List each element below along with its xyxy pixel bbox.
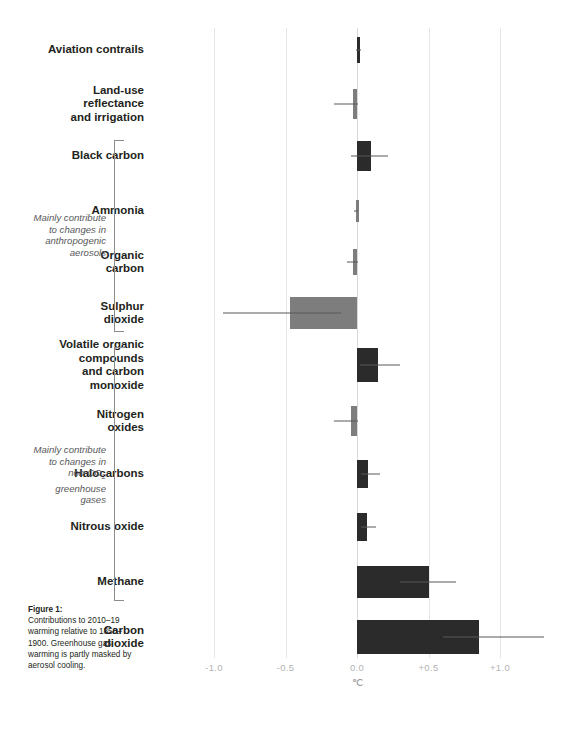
category-label-text: Organiccarbon <box>101 249 150 276</box>
gridline-+1.0 <box>500 28 501 658</box>
error-bar <box>361 527 375 528</box>
tick-label--1.0: -1.0 <box>205 662 223 673</box>
error-bar <box>356 50 362 51</box>
bar-row <box>150 620 573 654</box>
bar-row <box>150 141 573 171</box>
tick-label-0.0: 0.0 <box>350 662 364 673</box>
caption-body: Contributions to 2010–19 warming relativ… <box>28 615 136 671</box>
error-bar <box>443 637 545 638</box>
bar-row <box>150 406 573 436</box>
tick-label-+0.5: +0.5 <box>419 662 439 673</box>
error-bar <box>223 313 342 314</box>
group-bracket-anthropogenic-aerosols <box>114 140 124 332</box>
gridline--1.0 <box>214 28 215 658</box>
category-label: Nitrogenoxides <box>0 408 150 435</box>
category-label: Land-usereflectanceand irrigation <box>0 84 150 125</box>
category-label: Black carbon <box>0 149 150 163</box>
category-label-column: Aviation contrailsLand-usereflectanceand… <box>0 28 150 658</box>
bar-row <box>150 297 573 329</box>
category-label-text: Sulphurdioxide <box>101 300 150 327</box>
bar-row <box>150 460 573 488</box>
figure-caption: Figure 1: Contributions to 2010–19 warmi… <box>28 604 136 671</box>
error-bar <box>334 421 358 422</box>
category-label-text: Aviation contrails <box>48 43 150 57</box>
axis-unit-label: ℃ <box>352 677 363 688</box>
group-bracket-non-co2-greenhouse-gases <box>114 347 124 601</box>
category-label-text: Volatile organiccompoundsand carbonmonox… <box>59 338 150 392</box>
error-bar <box>347 262 358 263</box>
gridline-+0.5 <box>429 28 430 658</box>
error-bar <box>354 211 358 212</box>
category-label: Nitrous oxide <box>0 520 150 534</box>
error-bar <box>361 474 380 475</box>
gridline--0.5 <box>286 28 287 658</box>
bar-row <box>150 89 573 119</box>
category-label: Volatile organiccompoundsand carbonmonox… <box>0 338 150 392</box>
caption-title: Figure 1: <box>28 604 136 615</box>
category-label-text: Black carbon <box>72 149 150 163</box>
tick-label--0.5: -0.5 <box>277 662 295 673</box>
bar-row <box>150 249 573 275</box>
gridline-0.0 <box>357 28 358 658</box>
plot-area <box>150 28 573 658</box>
bar-row <box>150 566 573 598</box>
group-note-non-co2-greenhouse-gases: Mainly contributeto changes innon-CO2gre… <box>0 444 106 505</box>
error-bar <box>400 582 456 583</box>
error-bar <box>351 156 388 157</box>
figure-root: Aviation contrailsLand-usereflectanceand… <box>0 0 573 738</box>
error-bar <box>334 104 358 105</box>
bar-row <box>150 348 573 382</box>
bar-row <box>150 200 573 222</box>
category-label-text: Nitrous oxide <box>71 520 150 534</box>
category-label-text: Land-usereflectanceand irrigation <box>71 84 150 125</box>
error-bar <box>360 365 400 366</box>
group-note-anthropogenic-aerosols: Mainly contributeto changes inanthropoge… <box>0 212 106 258</box>
category-label: Aviation contrails <box>0 43 150 57</box>
bar-row <box>150 37 573 63</box>
tick-label-+1.0: +1.0 <box>490 662 510 673</box>
category-label: Methane <box>0 575 150 589</box>
category-label: Sulphurdioxide <box>0 300 150 327</box>
bar-row <box>150 513 573 541</box>
